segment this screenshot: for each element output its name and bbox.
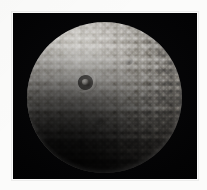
image-alt-text: Grayscale photograph of a heavily crater…	[0, 0, 1, 1]
moon-limb-edge-fade	[27, 22, 182, 173]
image-canvas: Grayscale photograph of a heavily crater…	[0, 0, 207, 190]
space-background	[13, 13, 197, 179]
moon-body	[27, 22, 182, 173]
